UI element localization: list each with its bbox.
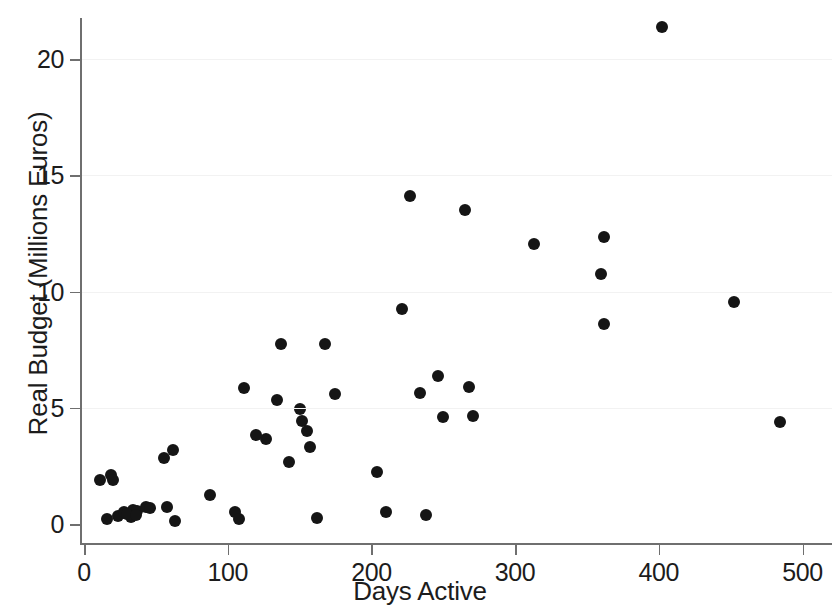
data-point [301, 425, 313, 437]
x-tick-mark [659, 545, 661, 555]
y-tick-mark [70, 524, 80, 526]
gridline [80, 175, 832, 176]
data-point [304, 441, 316, 453]
data-point [144, 502, 156, 514]
data-point [371, 466, 383, 478]
data-point [432, 370, 444, 382]
data-point [275, 338, 287, 350]
y-tick-mark [70, 175, 80, 177]
data-point [167, 444, 179, 456]
data-point [169, 515, 181, 527]
scatter-canvas [80, 18, 832, 542]
data-point [656, 21, 668, 33]
plot-area [80, 18, 832, 542]
data-point [420, 509, 432, 521]
data-point [459, 204, 471, 216]
y-tick-mark [70, 408, 80, 410]
y-axis-line [80, 18, 82, 544]
x-tick-mark [84, 545, 86, 555]
gridline [80, 292, 832, 293]
data-point [728, 296, 740, 308]
y-tick-mark [70, 59, 80, 61]
data-point [396, 303, 408, 315]
x-tick-mark [803, 545, 805, 555]
data-point [311, 512, 323, 524]
x-axis-line [80, 543, 832, 545]
data-point [130, 509, 142, 521]
y-axis-title: Real Budget (Millions Euros) [23, 24, 54, 524]
gridline [80, 408, 832, 409]
x-tick-mark [371, 545, 373, 555]
data-point [238, 382, 250, 394]
y-tick-mark [70, 292, 80, 294]
data-point [528, 238, 540, 250]
data-point [94, 474, 106, 486]
data-point [271, 394, 283, 406]
scatter-plot-figure: 05101520 0100200300400500 Real Budget (M… [0, 0, 840, 609]
data-point [294, 403, 306, 415]
gridline [80, 59, 832, 60]
data-point [107, 474, 119, 486]
data-point [414, 387, 426, 399]
x-axis-title: Days Active [0, 576, 840, 607]
x-tick-mark [228, 545, 230, 555]
x-tick-mark [515, 545, 517, 555]
data-point [774, 416, 786, 428]
data-point [161, 501, 173, 513]
data-point [463, 381, 475, 393]
